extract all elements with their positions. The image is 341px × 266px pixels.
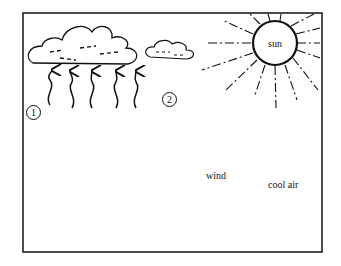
marker-2: 2 <box>162 92 177 107</box>
small-cloud-icon <box>146 40 194 59</box>
wind-label: wind <box>206 170 226 181</box>
diagram-canvas: sun <box>0 0 341 266</box>
sun-icon <box>202 14 320 108</box>
diagram: sun 1 2 <box>0 0 341 266</box>
rising-air-arrows-cloud <box>48 70 137 108</box>
marker-1: 1 <box>26 105 41 120</box>
sun-label: sun <box>268 38 282 49</box>
cool-air-label: cool air <box>268 179 298 190</box>
large-cloud-icon <box>28 26 137 64</box>
